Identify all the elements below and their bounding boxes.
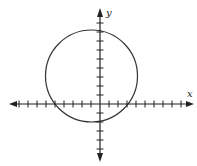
x-axis-left-arrow-icon	[9, 101, 17, 107]
coordinate-plane-svg: x y	[0, 0, 197, 166]
circle	[46, 30, 138, 122]
y-axis-label: y	[105, 7, 112, 18]
y-axis-up-arrow-icon	[97, 8, 103, 17]
coordinate-plane: x y	[0, 0, 197, 166]
x-axis-label: x	[187, 88, 193, 99]
x-axis-right-arrow-icon	[186, 101, 194, 107]
y-axis-down-arrow-icon	[97, 153, 103, 162]
x-axis: x	[9, 88, 194, 108]
